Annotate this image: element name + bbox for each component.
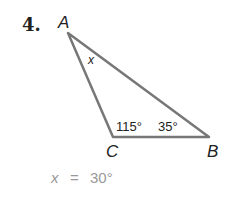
angle-b-label: 35° [158, 119, 178, 134]
angle-a-label: x [87, 53, 95, 67]
vertex-b-label: B [207, 142, 218, 161]
vertex-c-label: C [106, 142, 119, 161]
answer-equals: = [70, 169, 79, 186]
answer-variable: x [50, 169, 59, 186]
vertex-a-label: A [57, 13, 69, 32]
angle-c-label: 115° [116, 119, 142, 134]
triangle-diagram: 4. A C B x 115° 35° x = 30° [0, 0, 233, 200]
problem-number: 4. [22, 14, 41, 35]
answer-value: 30° [90, 169, 113, 186]
